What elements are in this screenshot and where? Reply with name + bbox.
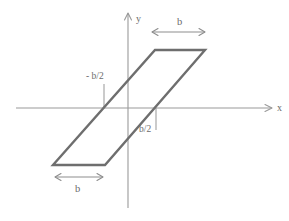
dimension-label-bottom-b: b bbox=[75, 184, 80, 195]
tick-label-b-over-2: b/2 bbox=[139, 125, 151, 135]
x-axis-group bbox=[16, 105, 272, 112]
diagram-svg bbox=[0, 0, 289, 221]
dimension-top-group bbox=[152, 29, 205, 36]
dimension-bottom-group bbox=[55, 174, 103, 181]
x-axis-label: x bbox=[277, 103, 282, 113]
dimension-label-top-b: b bbox=[177, 17, 182, 28]
y-axis-group bbox=[125, 13, 132, 208]
figure-canvas: y x - b/2 b/2 b b bbox=[0, 0, 289, 221]
tick-label-minus-b-over-2: - b/2 bbox=[86, 72, 104, 82]
y-axis-label: y bbox=[136, 14, 141, 24]
